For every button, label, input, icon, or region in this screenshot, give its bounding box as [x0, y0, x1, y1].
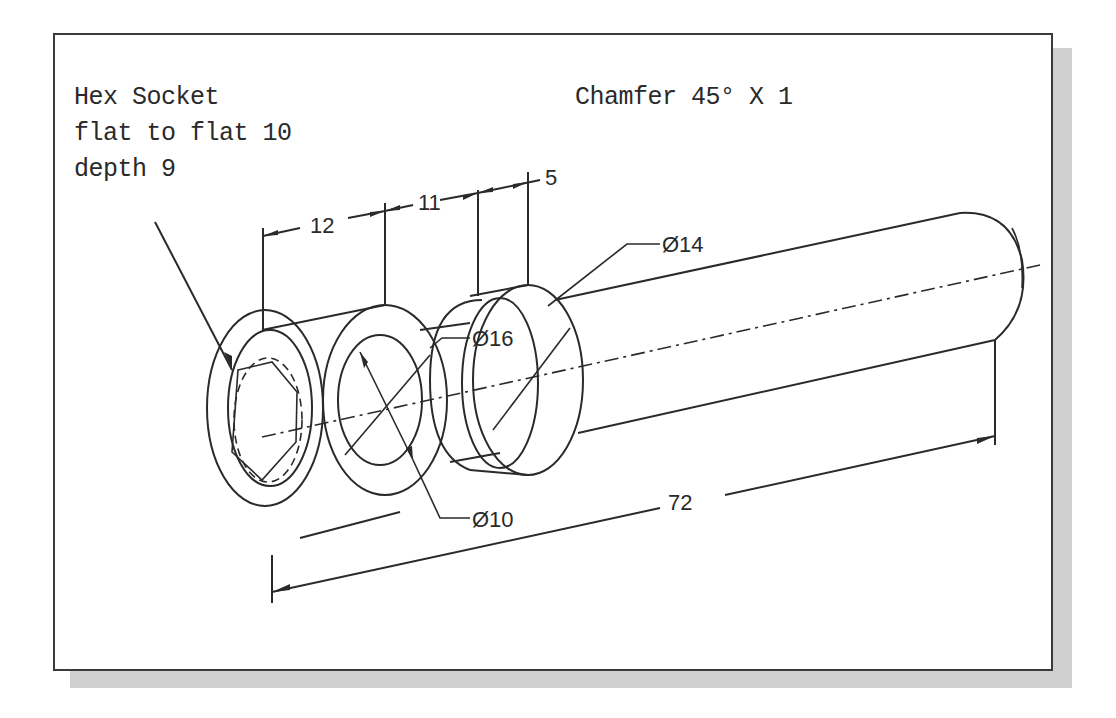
dim-label-12: 12 [310, 213, 334, 238]
dimension-dia-10: Ø10 [413, 460, 514, 532]
hex-socket-note-line1: Hex Socket [74, 83, 219, 112]
socket-head [207, 305, 400, 538]
dimension-5: 5 [478, 165, 557, 193]
technical-drawing: Hex Socket flat to flat 10 depth 9 Chamf… [0, 0, 1116, 718]
dimension-dia-14: Ø14 [548, 232, 704, 306]
dimension-12: 12 [263, 211, 385, 238]
hex-socket-leader [155, 222, 232, 370]
collar [430, 285, 583, 475]
dimension-dia-16: Ø16 [430, 326, 514, 351]
dimension-11: 11 [385, 190, 478, 215]
centerline [262, 265, 1040, 437]
hex-socket-note-line2: flat to flat 10 [74, 119, 292, 148]
dim-label-dia-10: Ø10 [472, 507, 514, 532]
dim-label-11: 11 [418, 190, 441, 215]
hex-socket-note-line3: depth 9 [74, 155, 176, 184]
hex-socket [232, 362, 297, 480]
dim-label-dia-14: Ø14 [662, 232, 704, 257]
chamfer-note: Chamfer 45° X 1 [575, 83, 793, 112]
dim-label-dia-16: Ø16 [472, 326, 514, 351]
dim-label-5: 5 [545, 165, 557, 190]
dimension-72: 72 [272, 340, 995, 603]
dim-label-72: 72 [668, 490, 692, 515]
